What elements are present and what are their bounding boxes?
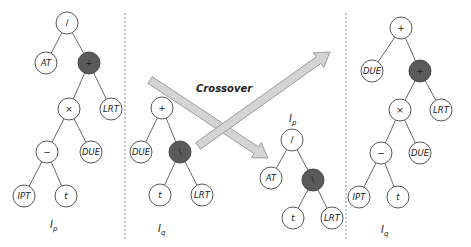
tree-node: ×: [58, 98, 80, 120]
tree-edge: [318, 190, 327, 208]
tree-edge: [74, 119, 86, 142]
tree-edge: [297, 150, 308, 171]
tree-parent-p: /AT+×LRT−DUEIPTtIp: [13, 12, 122, 233]
tree-node: IPT: [13, 185, 35, 207]
tree-edge: [51, 162, 61, 186]
tree-node: /: [281, 129, 303, 151]
node-label: LRT: [103, 104, 120, 114]
arrow-up-icon: [196, 52, 330, 149]
tree-node: +: [409, 60, 431, 82]
tree-label: Iq: [381, 224, 389, 238]
tree-node: AT: [260, 167, 282, 189]
node-label: −: [43, 147, 51, 157]
tree-edge: [405, 120, 416, 143]
tree-node: t: [387, 186, 409, 208]
node-label: DUE: [132, 147, 151, 157]
tree-node: t: [55, 185, 77, 207]
tree-label: Ip: [50, 219, 58, 233]
tree-node: \: [169, 141, 191, 163]
node-label: LRT: [433, 105, 450, 115]
node-label: +: [397, 23, 405, 33]
tree-edge: [385, 120, 395, 143]
tree-label: Iq: [158, 223, 166, 237]
tree-node: −: [36, 141, 58, 163]
tree-edge: [185, 162, 197, 185]
crossover-label: Crossover: [196, 83, 253, 94]
tree-edge: [405, 38, 415, 61]
tree-node: LRT: [321, 207, 343, 229]
tree-node: +: [390, 17, 412, 39]
crossover-diagram: Crossover /AT+×LRT−DUEIPTtIp+DUE\tLRTIq/…: [0, 0, 471, 247]
tree-edge: [378, 37, 395, 62]
tree-node: ×: [389, 99, 411, 121]
tree-edge: [385, 163, 394, 186]
node-label: IPT: [18, 191, 32, 201]
tree-node: t: [149, 184, 171, 206]
tree-edge: [146, 118, 158, 142]
tree-edge: [405, 81, 415, 100]
tree-node: LRT: [100, 98, 122, 120]
tree-node: IPT: [348, 186, 370, 208]
tree-node: +: [78, 52, 100, 74]
node-label: +: [158, 103, 166, 113]
tree-node: LRT: [430, 99, 452, 121]
tree-offspring-p: /AT\tLRTIp: [260, 113, 343, 229]
node-label: −: [377, 148, 385, 158]
node-label: DUE: [363, 66, 382, 76]
node-label: AT: [40, 58, 52, 68]
tree-edge: [51, 33, 62, 54]
node-label: +: [85, 58, 93, 68]
tree-node: DUE: [409, 142, 431, 164]
tree-node: LRT: [191, 184, 213, 206]
node-label: DUE: [411, 148, 430, 158]
node-label: ×: [65, 104, 73, 114]
tree-node: DUE: [80, 141, 102, 163]
tree-node: +: [151, 97, 173, 119]
tree-label: Ip: [289, 113, 297, 127]
tree-node: −: [370, 142, 392, 164]
tree-node: /: [56, 12, 78, 34]
tree-edge: [94, 73, 107, 99]
node-label: +: [416, 66, 424, 76]
tree-edge: [72, 33, 83, 54]
tree-edge: [166, 118, 176, 142]
tree-edge: [52, 119, 64, 142]
tree-edge: [73, 73, 84, 99]
tree-node: DUE: [361, 60, 383, 82]
node-label: IPT: [353, 192, 367, 202]
node-label: DUE: [82, 147, 101, 157]
node-label: AT: [265, 173, 277, 183]
tree-edge: [298, 190, 308, 209]
tree-node: AT: [35, 52, 57, 74]
node-label: LRT: [194, 190, 211, 200]
tree-edge: [29, 162, 42, 187]
tree-edge: [276, 150, 286, 169]
tree-edge: [165, 162, 176, 185]
tree-edge: [425, 81, 436, 101]
node-label: LRT: [324, 213, 341, 223]
tree-node: \: [302, 169, 324, 191]
tree-edge: [364, 163, 376, 187]
tree-offspring-q: +DUE+×LRT−DUEIPTtIq: [348, 17, 452, 238]
node-label: ×: [396, 105, 404, 115]
tree-node: DUE: [130, 141, 152, 163]
tree-node: t: [282, 207, 304, 229]
